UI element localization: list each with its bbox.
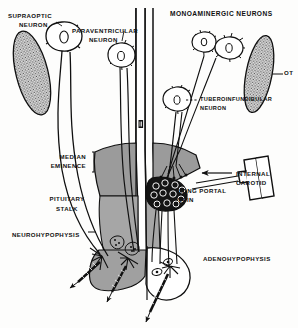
median-eminence-bracket <box>92 152 94 172</box>
label-supraoptic-neuron-line2: NEURON <box>19 22 48 29</box>
label-supraoptic-neuron-line1: SUPRAOPTIC <box>8 13 52 20</box>
label-long-portal-vein-line1: LONG PORTAL <box>178 188 226 195</box>
label-internal-carotid-line2: CAROTID <box>236 180 267 187</box>
label-pituitary-stalk-line1: PITUITARY <box>38 196 96 203</box>
label-median-eminence-line1: MEDIAN <box>20 154 86 161</box>
label-paraventricular-neuron-line2: NEURON <box>89 37 118 44</box>
label-internal-carotid-line1: INTERNAL <box>236 171 270 178</box>
label-optic-tract: OT <box>284 70 293 77</box>
label-monoaminergic-neurons: MONOAMINERGIC NEURONS <box>170 10 273 17</box>
label-paraventricular-neuron-line1: PARAVENTRICULAR <box>72 28 138 35</box>
hypothalamic-pituitary-diagram: SUPRAOPTIC NEURON PARAVENTRICULAR NEURON… <box>0 0 298 328</box>
label-adenohypophysis: ADENOHYPOPHYSIS <box>203 256 271 263</box>
label-tuberoinfundibular-neuron-line2: NEURON <box>200 105 226 111</box>
optic-tract-right <box>239 33 283 115</box>
label-tuberoinfundibular-neuron-line1: TUBEROINFUNDIBULAR <box>200 96 272 102</box>
label-pituitary-stalk-line2: STALK <box>38 206 96 213</box>
third-ventricle-mark <box>139 120 144 128</box>
label-median-eminence-line2: EMINENCE <box>12 163 86 170</box>
neurohypophysis <box>89 250 146 291</box>
label-long-portal-vein-line2: VEIN <box>178 197 194 204</box>
label-neurohypophysis: NEUROHYPOPHYSIS <box>12 232 80 239</box>
supraoptic-neuron <box>46 22 108 256</box>
monoaminergic-neuron-a <box>192 30 217 56</box>
